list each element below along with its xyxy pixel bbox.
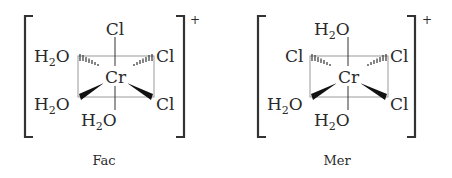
fac-isomer: + Cr Cl	[25, 13, 200, 168]
right-bracket	[407, 16, 415, 137]
ligand-bottom: H2O	[314, 110, 350, 133]
ligand-lower-right: Cl	[390, 94, 408, 114]
ligand-lower-left: H2O	[267, 94, 303, 117]
caption-fac: Fac	[92, 153, 115, 168]
isomer-diagram: + Cr Cl	[0, 0, 452, 178]
ligand-top: Cl	[106, 19, 124, 39]
metal-center: Cr	[105, 67, 127, 87]
right-bracket	[176, 16, 184, 137]
ligand-lower-right: Cl	[156, 94, 174, 114]
charge-label: +	[190, 13, 200, 27]
ligand-upper-right: Cl	[156, 46, 174, 66]
metal-center: Cr	[338, 67, 360, 87]
ligand-upper-right: Cl	[390, 46, 408, 66]
ligand-upper-left: H2O	[34, 46, 70, 69]
ligand-top: H2O	[314, 19, 350, 42]
caption-mer: Mer	[323, 153, 351, 168]
charge-label: +	[422, 13, 432, 27]
left-bracket	[25, 16, 33, 137]
ligand-bottom: H2O	[81, 110, 117, 133]
ligand-lower-left: H2O	[34, 94, 70, 117]
mer-isomer: + Cr H2O Cl Cl H2O	[258, 13, 432, 168]
left-bracket	[258, 16, 266, 137]
ligand-upper-left: Cl	[285, 46, 303, 66]
